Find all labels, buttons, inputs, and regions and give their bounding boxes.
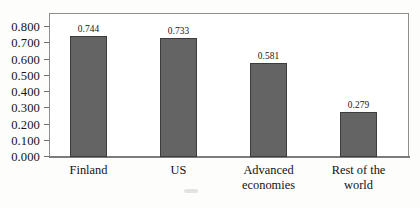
x-axis-category-label: Rest of the world	[314, 163, 404, 192]
y-axis-tick-mark	[44, 156, 49, 157]
bar-value-label: 0.744	[56, 24, 121, 34]
y-axis-tick: 0.200	[0, 118, 49, 132]
y-axis-tick-label: 0.100	[11, 134, 40, 148]
y-axis-tick-label: 0.400	[11, 85, 40, 99]
bar-value-label: 0.279	[326, 100, 391, 110]
y-axis-tick: 0.700	[0, 36, 49, 50]
y-axis-tick-label: 0.000	[11, 150, 40, 164]
y-axis-tick: 0.800	[0, 20, 49, 34]
chart-figure: 0.8000.7000.6000.5000.4000.3000.2000.100…	[0, 0, 420, 208]
bar	[70, 36, 107, 157]
bar-value-label: 0.581	[236, 51, 301, 61]
y-axis-tick-mark	[44, 140, 49, 141]
x-axis-category-label: US	[134, 163, 224, 178]
y-axis-tick: 0.500	[0, 69, 49, 83]
bar	[340, 112, 377, 157]
x-axis-category-label: Advanced economies	[224, 163, 314, 192]
y-axis-tick: 0.100	[0, 134, 49, 148]
y-axis-tick-label: 0.800	[11, 20, 40, 34]
y-axis-tick-mark	[44, 107, 49, 108]
y-axis-tick-mark	[44, 59, 49, 60]
y-axis-tick: 0.000	[0, 150, 49, 164]
y-axis: 0.8000.7000.6000.5000.4000.3000.2000.100…	[0, 0, 49, 208]
y-axis-tick-mark	[44, 124, 49, 125]
y-axis-tick-label: 0.700	[11, 36, 40, 50]
y-axis-tick-mark	[44, 26, 49, 27]
y-axis-tick: 0.400	[0, 85, 49, 99]
y-axis-tick: 0.300	[0, 101, 49, 115]
y-axis-tick-mark	[44, 75, 49, 76]
y-axis-tick-mark	[44, 42, 49, 43]
y-axis-tick-label: 0.300	[11, 101, 40, 115]
y-axis-tick: 0.600	[0, 53, 49, 67]
bar-value-label: 0.733	[146, 26, 211, 36]
y-axis-tick-label: 0.600	[11, 53, 40, 67]
scan-artifact	[184, 189, 198, 193]
y-axis-tick-mark	[44, 91, 49, 92]
x-axis-category-label: Finland	[44, 163, 134, 178]
bar	[250, 63, 287, 157]
y-axis-tick-label: 0.200	[11, 118, 40, 132]
bar	[160, 38, 197, 157]
y-axis-tick-label: 0.500	[11, 69, 40, 83]
